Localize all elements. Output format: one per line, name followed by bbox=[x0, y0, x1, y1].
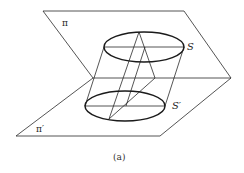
label-section-s: S bbox=[187, 42, 194, 52]
figure-caption: (a) bbox=[113, 153, 125, 162]
label-plane-pi-prime: π′ bbox=[36, 125, 44, 134]
plane-pi-prime-outline bbox=[16, 78, 231, 136]
diagram-canvas bbox=[0, 0, 244, 173]
inner-line-apex-to-intersection bbox=[139, 32, 155, 78]
label-section-s-prime: S′ bbox=[172, 101, 181, 111]
inner-line-center-projection bbox=[126, 47, 145, 106]
cylinder-left-generator bbox=[85, 47, 104, 106]
cylinder-right-generator bbox=[165, 47, 184, 106]
plane-pi-outline bbox=[43, 11, 231, 78]
label-plane-pi: π bbox=[62, 19, 68, 28]
